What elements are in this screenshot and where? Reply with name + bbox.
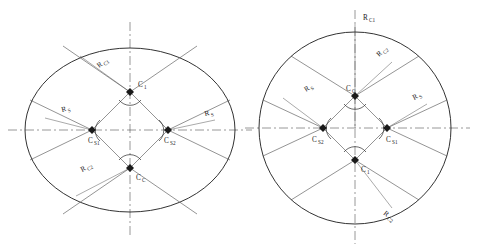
right-arc-cs1 [379,118,384,139]
svg-text:S: S [210,111,214,117]
right-spoke-cs2-upper [263,100,323,128]
left-arc-cs1 [95,120,100,141]
right-node-label-cs2: C S2 [312,136,324,145]
right-dim-label-rs-right: R S [411,90,423,102]
left-diagram-group: C 1 C S1 C S2 C C R C1 R S [8,22,252,238]
left-spoke-cs1-upper [30,100,92,130]
left-node-label-c1: C 1 [138,81,147,90]
svg-text:C1: C1 [102,58,111,67]
svg-text:1: 1 [367,169,370,175]
svg-text:C1: C1 [369,17,375,23]
svg-text:C: C [138,81,143,89]
left-dim-line-rs-left [45,118,92,130]
right-spoke-c1-lower-left [291,160,355,200]
svg-text:C: C [136,174,141,182]
svg-text:R: R [363,14,368,22]
svg-text:1: 1 [144,84,147,90]
svg-text:C: C [352,88,356,94]
right-dim-label-rc2-upper: R C2 [375,44,390,59]
right-dim-label-rc1: R C1 [363,14,375,23]
right-node-label-cc: C C [346,85,356,94]
right-dim-line-rc2-upper [355,62,392,96]
svg-text:C: C [88,137,93,145]
right-diagram-group: C C C S2 C S1 C 1 R C1 R C2 [245,10,470,244]
right-spoke-cc-upper-right [355,56,419,96]
left-spoke-cs2-lower [168,130,230,160]
left-spoke-cs2-upper [168,100,230,130]
right-node-label-c1: C 1 [361,166,370,175]
right-dim-label-rc2-lower: R C2 [381,209,396,224]
right-node-label-cs1: C S1 [386,136,398,145]
right-dim-line-rs-right [387,104,427,128]
right-spoke-cs1-upper [387,100,447,128]
right-arc-cs2 [326,118,331,139]
left-node-label-cs1: C S1 [88,137,100,146]
svg-text:C: C [346,85,351,93]
svg-text:S: S [67,107,71,114]
left-spoke-c1-upper-left [63,46,130,92]
right-dim-label-rs-left: R S [303,82,315,94]
svg-text:C2: C2 [381,46,390,55]
svg-text:S1: S1 [94,140,100,146]
diagram-canvas: C 1 C S1 C S2 C C R C1 R S [0,0,479,252]
svg-text:C: C [164,137,169,145]
left-dim-line-rs-right [168,120,215,130]
svg-text:C2: C2 [386,215,395,224]
svg-text:C: C [142,177,146,183]
svg-text:R: R [61,105,68,114]
left-dim-label-rc1: R C1 [95,56,110,71]
svg-text:S2: S2 [170,140,176,146]
left-dim-label-rc2: R C2 [79,161,94,175]
right-dim-line-rs-left [283,98,323,128]
left-node-label-cs2: C S2 [164,137,176,146]
left-dim-label-rs-left: R S [61,104,72,115]
svg-text:R: R [204,109,211,118]
svg-text:C: C [361,166,366,174]
diagram-svg: C 1 C S1 C S2 C C R C1 R S [0,0,479,252]
left-spoke-cs1-lower [30,130,92,160]
left-spoke-cc-lower-left [63,168,130,214]
svg-text:C2: C2 [86,164,95,172]
svg-text:C: C [312,136,317,144]
svg-text:S2: S2 [318,139,324,145]
svg-text:C: C [386,136,391,144]
svg-text:S1: S1 [392,139,398,145]
